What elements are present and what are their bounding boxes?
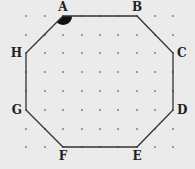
octagon-diagram: ABCDEFGH [0,0,195,169]
grid-dot [172,15,174,17]
grid-dot [44,146,46,148]
grid-dot [25,34,27,36]
grid-dots [25,15,174,148]
grid-dot [62,34,64,36]
grid-dot [154,146,156,148]
grid-dot [44,52,46,54]
grid-dot [25,146,27,148]
vertex-label-f: F [59,149,68,163]
vertex-label-b: B [132,0,142,14]
vertex-label-d: D [177,103,187,117]
grid-dot [136,128,138,130]
grid-dot [136,34,138,36]
grid-dot [117,109,119,111]
grid-dot [136,90,138,92]
grid-dot [117,90,119,92]
grid-dot [25,128,27,130]
grid-dot [99,71,101,73]
grid-dot [25,15,27,17]
grid-dot [44,90,46,92]
grid-dot [172,128,174,130]
grid-dot [99,34,101,36]
grid-dot [81,90,83,92]
grid-dot [81,71,83,73]
grid-dot [62,71,64,73]
grid-dot [99,128,101,130]
grid-dot [99,109,101,111]
grid-dot [136,52,138,54]
grid-dot [136,71,138,73]
vertex-label-g: G [12,103,22,117]
grid-dot [44,109,46,111]
vertex-label-c: C [177,46,187,60]
grid-dot [99,52,101,54]
grid-dot [62,109,64,111]
grid-dot [81,52,83,54]
grid-dot [62,90,64,92]
vertex-label-a: A [57,0,68,14]
grid-dot [172,146,174,148]
grid-dot [81,109,83,111]
grid-dot [62,128,64,130]
grid-dot [81,34,83,36]
grid-dot [154,52,156,54]
vertex-label-e: E [132,149,141,163]
dot-grid-figure: ABCDEFGH [0,0,195,169]
vertex-label-h: H [11,46,22,60]
grid-dot [62,52,64,54]
grid-dot [154,90,156,92]
grid-dot [81,128,83,130]
grid-dot [154,109,156,111]
grid-dot [99,90,101,92]
grid-dot [136,109,138,111]
grid-dot [44,71,46,73]
grid-dot [117,34,119,36]
grid-dot [117,52,119,54]
grid-dot [44,15,46,17]
vertex-labels: ABCDEFGH [11,0,188,163]
grid-dot [154,15,156,17]
grid-dot [172,34,174,36]
grid-dot [117,71,119,73]
grid-dot [154,71,156,73]
grid-dot [117,128,119,130]
